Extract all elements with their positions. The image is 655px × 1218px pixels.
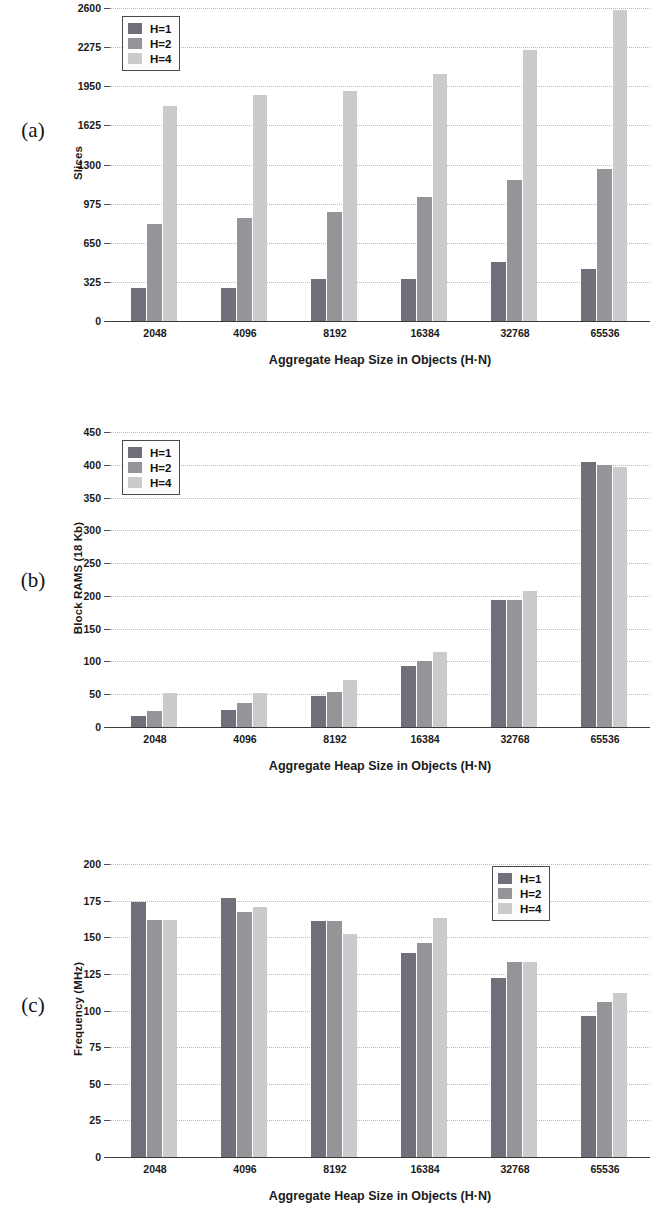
y-tick-mark [104, 8, 110, 9]
y-tick-label: 200 [83, 590, 101, 602]
gridline [110, 694, 650, 695]
bar [253, 907, 268, 1158]
bar [131, 902, 146, 1157]
x-tick-label: 32768 [500, 327, 529, 339]
y-tick-label: 1625 [78, 119, 101, 131]
bar [253, 95, 268, 321]
bar [311, 921, 326, 1157]
bar [613, 10, 628, 321]
legend-item: H=2 [128, 460, 171, 475]
gridline [110, 86, 650, 87]
legend-item: H=2 [128, 36, 171, 51]
y-tick-mark [104, 282, 110, 283]
bar [491, 978, 506, 1157]
legend-label: H=4 [150, 477, 171, 489]
panel-letter: (a) [10, 118, 56, 143]
x-tick-label: 32768 [500, 733, 529, 745]
bar [163, 693, 178, 727]
gridline [110, 1120, 650, 1121]
bar [523, 50, 538, 321]
gridline [110, 125, 650, 126]
bar [401, 666, 416, 727]
y-tick-mark [104, 204, 110, 205]
bar [327, 212, 342, 321]
bar [237, 912, 252, 1157]
x-tick-label: 16384 [410, 733, 439, 745]
legend-item: H=4 [498, 901, 541, 916]
y-tick-mark [104, 563, 110, 564]
y-tick-mark [104, 125, 110, 126]
bar [581, 462, 596, 727]
y-tick-mark [104, 530, 110, 531]
bar [237, 703, 252, 727]
legend: H=1H=2H=4 [122, 16, 180, 71]
y-tick-label: 450 [83, 426, 101, 438]
gridline [110, 661, 650, 662]
legend-label: H=4 [520, 903, 541, 915]
x-axis-label: Aggregate Heap Size in Objects (H·N) [110, 1189, 650, 1203]
y-tick-mark [104, 1084, 110, 1085]
y-tick-mark [104, 498, 110, 499]
bar [417, 197, 432, 321]
gridline [110, 204, 650, 205]
legend-swatch-icon [128, 462, 142, 473]
legend-label: H=1 [520, 873, 541, 885]
y-tick-mark [104, 321, 110, 322]
y-tick-label: 1300 [78, 159, 101, 171]
bar [253, 693, 268, 727]
bar [147, 711, 162, 727]
legend-swatch-icon [128, 477, 142, 488]
bar [597, 465, 612, 727]
legend-label: H=1 [150, 23, 171, 35]
bar [343, 680, 358, 727]
bar [163, 920, 178, 1157]
x-tick-label: 4096 [233, 327, 256, 339]
y-tick-label: 0 [95, 721, 101, 733]
x-tick-label: 65536 [590, 327, 619, 339]
plot-area: 0501001502002503003504004502048409681921… [110, 432, 650, 727]
y-axis-label: Frequency (MHz) [72, 929, 84, 1089]
bar [221, 288, 236, 321]
x-tick-label: 4096 [233, 1163, 256, 1175]
chart-panel-b: (b)Block RAMS (18 Kb)0501001502002503003… [0, 0, 655, 1218]
bar [237, 218, 252, 321]
x-tick-label: 8192 [323, 733, 346, 745]
bar [131, 288, 146, 321]
bar [147, 920, 162, 1157]
x-axis-label: Aggregate Heap Size in Objects (H·N) [110, 353, 650, 367]
legend-swatch-icon [498, 903, 512, 914]
bar [613, 467, 628, 727]
y-tick-mark [104, 86, 110, 87]
panel-letter: (b) [10, 568, 56, 593]
x-tick-label: 2048 [143, 1163, 166, 1175]
bar [507, 962, 522, 1157]
x-tick-label: 8192 [323, 327, 346, 339]
y-tick-mark [104, 727, 110, 728]
legend-swatch-icon [128, 23, 142, 34]
y-tick-label: 75 [89, 1041, 101, 1053]
legend-label: H=4 [150, 53, 171, 65]
gridline [110, 974, 650, 975]
y-tick-label: 100 [83, 655, 101, 667]
y-tick-label: 125 [83, 968, 101, 980]
gridline [110, 8, 650, 9]
bar [417, 661, 432, 727]
x-axis-label: Aggregate Heap Size in Objects (H·N) [110, 759, 650, 773]
x-tick-label: 16384 [410, 327, 439, 339]
gridline [110, 243, 650, 244]
y-tick-mark [104, 901, 110, 902]
gridline [110, 530, 650, 531]
y-tick-mark [104, 629, 110, 630]
axis-baseline [110, 727, 650, 728]
bar [417, 943, 432, 1157]
legend-item: H=4 [128, 51, 171, 66]
bar [401, 953, 416, 1157]
legend-label: H=2 [150, 38, 171, 50]
y-tick-label: 150 [83, 931, 101, 943]
gridline [110, 596, 650, 597]
gridline [110, 864, 650, 865]
y-tick-label: 350 [83, 492, 101, 504]
y-axis-label: Block RAMS (18 Kb) [72, 498, 84, 658]
gridline [110, 432, 650, 433]
y-tick-mark [104, 465, 110, 466]
